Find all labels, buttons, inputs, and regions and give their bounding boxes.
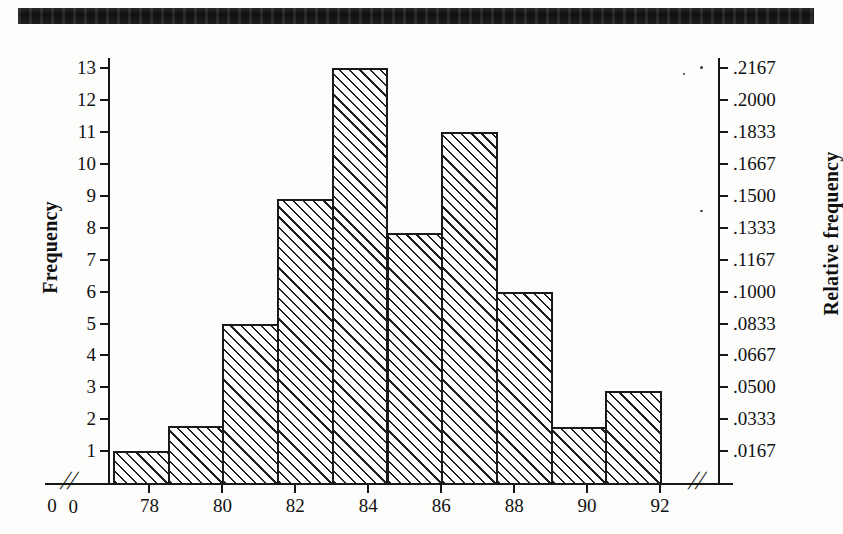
- x-axis-tick-label: 86: [421, 496, 461, 515]
- y-axis-left-tick-label: 8: [58, 218, 96, 237]
- scan-speckle: [700, 210, 703, 212]
- x-axis-tick-label: 88: [494, 496, 534, 515]
- y-axis-left-tick: [100, 386, 109, 388]
- y-axis-left-tick: [100, 163, 109, 165]
- y-axis-left-tick-label: 1: [58, 441, 96, 460]
- scan-speckle: [90, 60, 92, 62]
- y-axis-title-frequency: Frequency: [39, 158, 62, 338]
- y-axis-left-tick: [100, 323, 109, 325]
- scan-speckle: [700, 66, 703, 69]
- y-axis-left-tick: [100, 227, 109, 229]
- x-axis-tick-label: 80: [202, 496, 242, 515]
- x-axis-tick: [513, 484, 515, 493]
- y-axis-right-tick-label: .2167: [733, 58, 803, 77]
- y-axis-right-tick: [719, 354, 728, 356]
- x-axis-tick-label: 92: [640, 496, 680, 515]
- histogram-bar: [605, 391, 662, 486]
- y-axis-right-tick-label: .0167: [733, 441, 803, 460]
- y-axis-right-tick-label: .0333: [733, 409, 803, 428]
- x-axis-tick-label: 90: [567, 496, 607, 515]
- y-axis-left-tick-label: 4: [58, 345, 96, 364]
- y-axis-left-tick-label: 7: [58, 250, 96, 269]
- y-axis-left-tick: [100, 131, 109, 133]
- y-axis-left-tick: [100, 418, 109, 420]
- y-axis-right-tick-label: .1833: [733, 122, 803, 141]
- y-axis-left-tick: [100, 354, 109, 356]
- y-axis-left-tick: [100, 67, 109, 69]
- x-axis-tick: [659, 484, 661, 493]
- x-axis-tick: [221, 484, 223, 493]
- y-axis-right-tick: [719, 195, 728, 197]
- figure-caption: [80, 520, 700, 533]
- y-axis-left-tick: [100, 195, 109, 197]
- histogram-bar: [551, 427, 608, 485]
- y-axis-right-tick: [719, 291, 728, 293]
- y-axis-right-tick: [719, 450, 728, 452]
- x-axis-tick: [440, 484, 442, 493]
- y-axis-right-tick-label: .0667: [733, 345, 803, 364]
- y-axis-right-tick: [719, 227, 728, 229]
- y-axis-left-line: [108, 58, 110, 485]
- x-axis-break-right: //: [686, 468, 709, 494]
- x-axis-break-left: //: [58, 468, 81, 494]
- y-axis-left-tick-label: 3: [58, 377, 96, 396]
- y-axis-left-tick-label: 12: [58, 90, 96, 109]
- y-axis-right-tick-label: .0833: [733, 314, 803, 333]
- y-axis-right-tick-label: .2000: [733, 90, 803, 109]
- histogram-bar: [441, 132, 498, 485]
- histogram-bar: [113, 451, 170, 485]
- y-axis-right-tick-label: .1333: [733, 218, 803, 237]
- y-axis-left-tick: [100, 259, 109, 261]
- y-axis-right-line: [718, 58, 720, 485]
- histogram-bars: [113, 60, 660, 485]
- y-axis-left-tick: [100, 99, 109, 101]
- y-axis-title-relative-frequency: Relative frequency: [820, 119, 843, 349]
- x-axis-tick-label: 84: [348, 496, 388, 515]
- y-axis-left-tick-label: 2: [58, 409, 96, 428]
- y-axis-left-tick: [100, 291, 109, 293]
- histogram-bar: [222, 324, 279, 486]
- x-axis-tick: [148, 484, 150, 493]
- y-axis-right-tick: [719, 131, 728, 133]
- scan-header-black-bar: [18, 8, 814, 24]
- y-axis-left-tick: [100, 450, 109, 452]
- scan-speckle: [683, 73, 685, 75]
- histogram-bar: [387, 233, 444, 485]
- y-axis-left-tick-label: 6: [58, 282, 96, 301]
- y-axis-right-tick: [719, 67, 728, 69]
- x-axis-tick-label: 0: [32, 496, 72, 515]
- y-axis-right-tick: [719, 418, 728, 420]
- histogram-bar: [277, 199, 334, 485]
- y-axis-right-tick-label: .1667: [733, 154, 803, 173]
- y-axis-right-tick: [719, 386, 728, 388]
- y-axis-left-tick-label: 9: [58, 186, 96, 205]
- y-axis-left-tick-label: 10: [58, 154, 96, 173]
- y-axis-right-tick: [719, 259, 728, 261]
- y-axis-right-tick-label: .1000: [733, 282, 803, 301]
- x-axis-tick-label: 82: [275, 496, 315, 515]
- histogram-bar: [496, 292, 553, 485]
- x-axis-tick: [586, 484, 588, 493]
- histogram-bar: [332, 68, 389, 485]
- y-axis-right-tick: [719, 99, 728, 101]
- y-axis-right-tick-label: .1500: [733, 186, 803, 205]
- y-axis-right-tick-label: .1167: [733, 250, 803, 269]
- x-axis-tick: [367, 484, 369, 493]
- y-axis-left-tick-label: 11: [58, 122, 96, 141]
- y-axis-left-tick-label: 5: [58, 314, 96, 333]
- y-axis-right-tick-label: .0500: [733, 377, 803, 396]
- x-axis-tick-label: 78: [129, 496, 169, 515]
- histogram-bar: [168, 426, 225, 485]
- x-axis-tick: [294, 484, 296, 493]
- y-axis-right-tick: [719, 163, 728, 165]
- y-axis-right-tick: [719, 323, 728, 325]
